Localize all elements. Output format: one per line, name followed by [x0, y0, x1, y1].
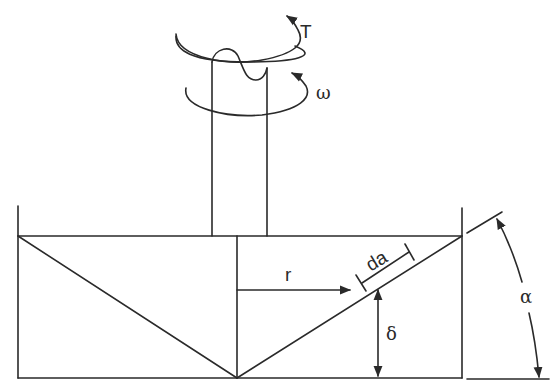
container	[18, 206, 462, 378]
cone-plate-viscometer-diagram: T ω r da δ α	[0, 0, 558, 391]
torque-arrow-icon	[176, 16, 305, 62]
torque-label: T	[300, 21, 312, 42]
radius-label: r	[285, 264, 292, 285]
cone-angle-label: α	[520, 286, 532, 307]
cone	[18, 236, 462, 378]
shaft	[212, 49, 267, 236]
area-element-label: da	[362, 246, 391, 275]
angular-velocity-arrow-icon	[186, 73, 308, 116]
gap-label: δ	[386, 323, 397, 344]
cone-angle-dimension	[467, 212, 549, 379]
angular-velocity-label: ω	[316, 82, 331, 103]
